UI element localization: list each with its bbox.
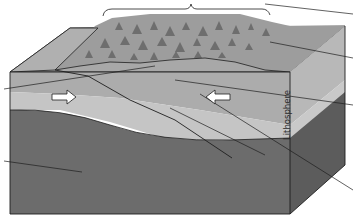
block-diagram-svg: Lithosphere — [0, 0, 353, 219]
collision-block-diagram: Lithosphere — [0, 0, 353, 219]
lithosphere-label: Lithosphere — [282, 90, 292, 140]
leader-mountain-range — [265, 4, 353, 14]
